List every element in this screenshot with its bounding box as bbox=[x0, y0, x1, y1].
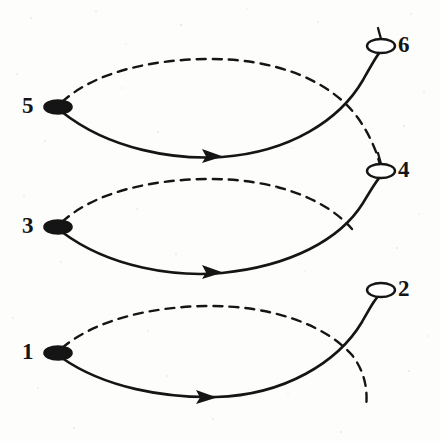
arrowheads-layer bbox=[196, 149, 223, 404]
edge-dashed-arc-1-tail bbox=[62, 306, 367, 408]
node-label-3: 3 bbox=[22, 214, 34, 237]
node-label-4: 4 bbox=[398, 158, 410, 181]
node-label-2: 2 bbox=[398, 277, 410, 300]
arrowhead-solid-arc-5-to-6 bbox=[202, 149, 223, 163]
edge-dashed-arc-5-to-4 bbox=[62, 59, 380, 165]
edge-solid-arc-1-to-2 bbox=[62, 296, 380, 397]
node-label-1: 1 bbox=[22, 340, 34, 363]
node-6[interactable] bbox=[367, 39, 395, 53]
edge-solid-arc-3-to-4 bbox=[62, 177, 380, 274]
node-3[interactable] bbox=[44, 220, 72, 234]
node-1[interactable] bbox=[44, 346, 72, 360]
node-label-6: 6 bbox=[398, 33, 410, 56]
node-5[interactable] bbox=[44, 100, 72, 114]
tick-node-6 bbox=[378, 28, 381, 39]
arrowhead-solid-arc-3-to-4 bbox=[202, 265, 223, 279]
diagram-canvas: 642531 bbox=[0, 0, 440, 441]
edges-layer bbox=[62, 52, 380, 408]
edge-dashed-arc-3-to-2 bbox=[62, 179, 352, 229]
node-4[interactable] bbox=[367, 164, 395, 178]
node-2[interactable] bbox=[367, 283, 395, 297]
edge-solid-arc-5-to-6 bbox=[62, 52, 380, 157]
node-label-5: 5 bbox=[22, 94, 34, 117]
braid-diagram bbox=[0, 0, 440, 441]
